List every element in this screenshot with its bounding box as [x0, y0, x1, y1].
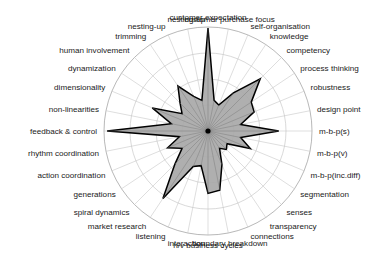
axis-label: nesting-up [167, 15, 205, 24]
axis-label: m-b-p(v) [317, 149, 348, 158]
axis-label: listening [136, 232, 166, 241]
axis-label: robustness [311, 83, 351, 92]
axis-label: m-b-p(s) [319, 127, 350, 136]
axis-label: dimensionality [54, 83, 106, 92]
radar-chart-container: customer expectationcustomer purchase fo… [0, 0, 387, 267]
axis-label: dynamization [68, 64, 116, 73]
axis-label: process thinking [300, 64, 359, 73]
axis-label: non-linearities [49, 105, 99, 114]
axis-label: self-organisation [251, 22, 310, 31]
axis-label: rhythm coordination [28, 149, 99, 158]
axis-label: feedback & control [30, 127, 97, 136]
axis-label: generations [73, 190, 115, 199]
axis-label: human involvement [59, 46, 130, 55]
axis-label: knowledge [270, 32, 309, 41]
axis-label: trimming [115, 32, 146, 41]
axis-label: transparency [270, 222, 318, 231]
chart-center-dot [205, 128, 210, 133]
axis-label: competency [287, 46, 332, 55]
axis-label: market research [88, 222, 146, 231]
radar-chart: customer expectationcustomer purchase fo… [0, 0, 387, 267]
axis-label: m-b-p(inc.diff) [311, 171, 361, 180]
axis-label: design point [317, 105, 361, 114]
axis-label: segmentation [300, 190, 349, 199]
axis-label: interaction [168, 239, 205, 248]
axis-label: action coordination [37, 171, 105, 180]
axis-label: nesting-up [128, 22, 166, 31]
axis-label: senses [287, 208, 313, 217]
data-series-polygon [107, 28, 279, 198]
axis-label: spiral dynamics [74, 208, 130, 217]
